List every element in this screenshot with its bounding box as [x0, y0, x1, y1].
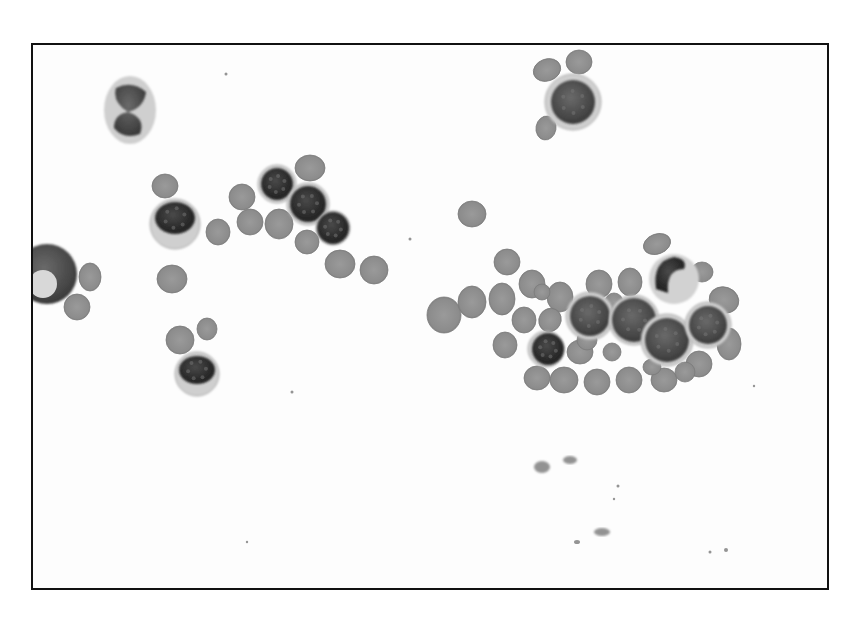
debris-particle — [753, 385, 755, 387]
white-blood-cell — [528, 331, 564, 367]
red-blood-cell — [512, 307, 536, 333]
debris-particle — [617, 485, 620, 488]
white-blood-cells — [33, 74, 731, 396]
debris-particle — [613, 498, 615, 500]
red-blood-cell — [534, 284, 550, 300]
red-blood-cell — [360, 256, 388, 284]
debris-particle — [246, 541, 248, 543]
debris-particle — [409, 238, 412, 241]
white-blood-cell — [150, 199, 200, 249]
red-blood-cell — [325, 250, 355, 278]
white-blood-cell — [545, 74, 601, 130]
red-blood-cell — [616, 367, 642, 393]
red-blood-cell — [458, 286, 486, 318]
red-blood-cell — [295, 230, 319, 254]
debris-particle — [574, 540, 580, 544]
debris-particle — [594, 528, 610, 536]
red-blood-cell — [79, 263, 101, 291]
white-blood-cell — [316, 211, 350, 245]
red-blood-cell — [206, 219, 230, 245]
red-blood-cell — [197, 318, 217, 340]
debris-particle — [709, 551, 712, 554]
red-blood-cell — [494, 249, 520, 275]
red-blood-cell — [458, 201, 486, 227]
red-blood-cell — [157, 265, 187, 293]
red-blood-cell — [603, 343, 621, 361]
red-blood-cell — [566, 50, 592, 74]
micrograph-frame — [31, 43, 829, 590]
red-blood-cell — [229, 184, 255, 210]
red-blood-cell — [584, 369, 610, 395]
red-blood-cell — [166, 326, 194, 354]
debris-particle — [563, 456, 577, 464]
white-blood-cell — [685, 302, 731, 348]
white-blood-cell — [566, 292, 614, 340]
red-blood-cell — [524, 366, 550, 390]
white-blood-cell — [175, 352, 219, 396]
red-blood-cell — [427, 297, 461, 333]
band-neutrophil — [649, 254, 699, 304]
red-blood-cell — [675, 362, 695, 382]
neutrophil — [104, 76, 156, 144]
red-blood-cell — [550, 367, 578, 393]
red-blood-cell — [64, 294, 90, 320]
red-blood-cell — [265, 209, 293, 239]
debris-particle — [724, 548, 728, 552]
debris-layer — [225, 73, 756, 554]
red-blood-cell — [618, 268, 642, 296]
debris-particle — [225, 73, 228, 76]
debris-particle — [534, 461, 550, 473]
red-blood-cell — [489, 283, 515, 315]
white-blood-cell-edge — [33, 244, 77, 304]
red-blood-cell — [152, 174, 178, 198]
red-blood-cell — [237, 209, 263, 235]
red-blood-cell — [295, 155, 325, 181]
red-blood-cell — [493, 332, 517, 358]
red-blood-cell — [640, 230, 673, 258]
micrograph-image — [33, 45, 827, 588]
debris-particle — [291, 391, 294, 394]
